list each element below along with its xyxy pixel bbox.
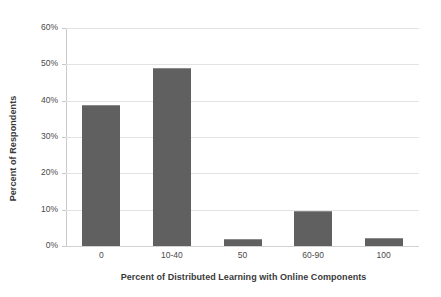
y-axis-tick-label: 50% [16,58,58,68]
y-axis-tick-label: 0% [16,240,58,250]
y-axis-tick-mark [62,64,66,65]
y-axis-tick-labels: 0%10%20%30%40%50%60% [0,0,58,297]
y-axis-tick-mark [62,28,66,29]
x-axis-tick-label: 0 [99,250,104,260]
x-axis-title: Percent of Distributed Learning with Onl… [66,272,421,282]
x-axis-tick-labels: 010-405060-90100 [66,250,419,266]
bar [82,105,120,246]
bar [224,239,262,246]
y-axis-tick-label: 10% [16,204,58,214]
x-axis-tick-label: 60-90 [302,250,324,260]
y-axis-tick-mark [62,210,66,211]
bar-chart-figure: Percent of Respondents 0%10%20%30%40%50%… [0,0,441,297]
y-axis-tick-mark [62,137,66,138]
gridline [66,64,419,65]
y-axis-tick-label: 20% [16,167,58,177]
bar [294,211,332,246]
x-axis-tick-label: 100 [377,250,391,260]
bar [365,238,403,246]
bar [153,68,191,246]
y-axis-tick-label: 40% [16,95,58,105]
x-axis-tick-label: 50 [238,250,247,260]
gridline [66,101,419,102]
y-axis-tick-label: 60% [16,22,58,32]
y-axis-tick-mark [62,101,66,102]
x-axis-tick-label: 10-40 [161,250,183,260]
gridline [66,28,419,29]
y-axis-tick-mark [62,173,66,174]
plot-area [66,28,419,246]
y-axis-tick-mark [62,246,66,247]
y-axis-tick-label: 30% [16,131,58,141]
gridline [66,246,419,247]
